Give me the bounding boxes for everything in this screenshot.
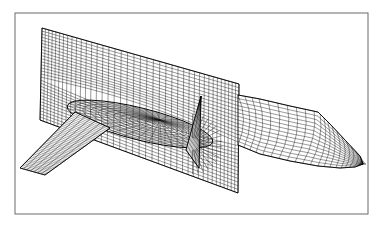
mesh-canvas [0,0,383,225]
fuselage [238,95,366,168]
aircraft-mesh-figure [0,0,383,225]
